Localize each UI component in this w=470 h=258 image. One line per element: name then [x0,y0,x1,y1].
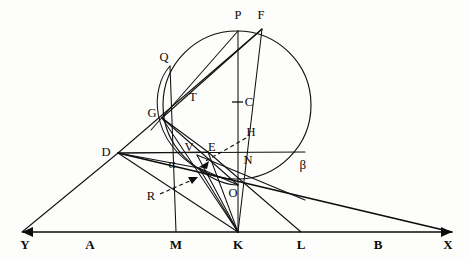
axis-label-B: B [374,238,383,251]
point-label-alpha: α [168,157,175,170]
point-label-V: V [184,141,193,154]
axis-label-M: M [170,238,182,251]
segment-Y-D [22,153,118,232]
pointer-R-dashed [160,180,192,194]
point-label-R: R [147,190,156,203]
point-label-N: N [243,154,252,167]
axis-label-X: X [443,238,452,251]
point-label-D: D [101,146,110,159]
point-label-T: T [189,91,197,104]
segment-T-chord [151,31,238,130]
point-label-F: F [257,9,264,22]
pointer-R-arrowhead [188,177,198,184]
point-label-H: H [246,126,255,139]
baseline-arrow-left [22,227,33,237]
point-label-E: E [208,141,216,154]
point-label-G: G [147,107,156,120]
point-label-Q: Q [159,51,168,64]
point-label-O: O [228,187,237,200]
point-label-C: C [245,96,254,109]
figure-canvas [0,0,470,258]
axis-label-L: L [297,238,306,251]
axis-label-A: A [85,238,94,251]
point-label-beta: β [300,158,307,171]
axis-label-K: K [233,238,243,251]
geometry-figure: P F Q T C G H D V E N α β O R Y A M K L … [0,0,470,258]
main-circle [163,31,311,179]
point-label-P: P [234,9,241,22]
axis-label-Y: Y [20,238,29,251]
